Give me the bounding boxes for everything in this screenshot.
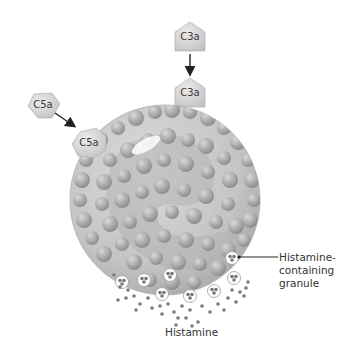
c5a-binding-arrow — [55, 113, 74, 126]
granule-label-line1: Histamine- — [279, 251, 336, 263]
c3a-bound-label: C3a — [175, 87, 205, 98]
diagram-canvas — [0, 0, 347, 355]
granule-label-line2: containing — [279, 264, 334, 276]
histamine-label: Histamine — [165, 326, 218, 338]
c5a-free-label: C5a — [28, 99, 58, 110]
diagram: C3a C3a C5a C5a Histamine- containing gr… — [0, 0, 347, 355]
granule-label-line3: granule — [279, 277, 319, 289]
c3a-free-label: C3a — [175, 31, 205, 42]
c5a-bound-label: C5a — [74, 137, 104, 148]
